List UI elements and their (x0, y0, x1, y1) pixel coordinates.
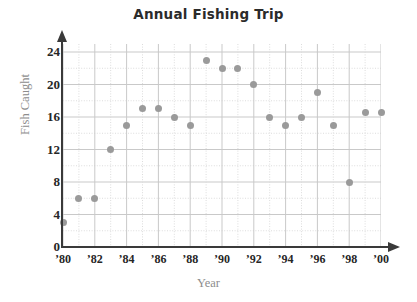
x-tick-label: ’88 (182, 252, 198, 267)
x-tick-label: ’90 (214, 252, 230, 267)
chart-figure: Annual Fishing Trip 04812162024 ’80’82’8… (0, 0, 417, 302)
y-tick-label: 4 (32, 207, 60, 223)
y-tick-label: 16 (32, 109, 60, 125)
x-tick-label: ’94 (278, 252, 294, 267)
y-tick-label: 12 (32, 142, 60, 158)
x-tick-label: ’00 (373, 252, 389, 267)
x-tick-label: ’92 (246, 252, 262, 267)
y-tick-label: 20 (32, 77, 60, 93)
x-tick-label: ’84 (119, 252, 135, 267)
x-tick-label: ’98 (341, 252, 357, 267)
x-tick-label: ’96 (309, 252, 325, 267)
y-tick-label: 8 (32, 174, 60, 190)
x-tick-label: ’80 (55, 252, 71, 267)
x-tick-label: ’82 (87, 252, 103, 267)
y-axis-title: Fish Caught (18, 50, 33, 160)
x-axis-title: Year (0, 276, 417, 291)
y-tick-label: 24 (32, 44, 60, 60)
x-tick-label: ’86 (150, 252, 166, 267)
